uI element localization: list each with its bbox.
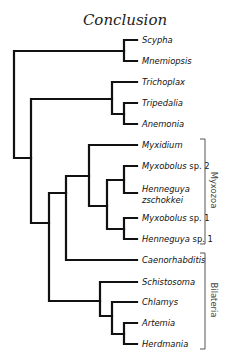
node-tripedalia-anemonia — [124, 103, 137, 124]
bilateria-bracket — [200, 253, 205, 349]
taxon-label-line2: zschokkei — [141, 195, 184, 205]
taxon-labels: Scypha Mnemiopsis Trichoplax Tripedalia … — [141, 35, 213, 349]
taxon-label: Myxobolus sp. 2 — [142, 161, 210, 171]
node-107 — [107, 180, 124, 229]
taxon-label: Anemonia — [141, 119, 184, 129]
taxon-label: Chlamys — [142, 297, 179, 307]
node-bilateria — [100, 282, 137, 316]
node-scypha-mnemiopsis — [124, 40, 137, 61]
bilateria-label: Bilateria — [209, 283, 219, 318]
myxozoa-bracket — [200, 139, 205, 244]
taxon-label: Herdmania — [142, 339, 188, 349]
phylogenetic-tree: Conclusion Scypha Mnemiopsis Trichoplax … — [0, 0, 231, 359]
node-artemia-herdmania — [124, 323, 137, 344]
taxon-label: Caenorhabditis — [142, 255, 206, 265]
node-myxozoa — [89, 145, 137, 206]
node-myxobolus1-henneguya1 — [124, 218, 137, 239]
taxon-label: Mnemiopsis — [142, 56, 192, 66]
taxon-label: Scypha — [142, 35, 173, 45]
taxon-label: Tripedalia — [142, 98, 183, 108]
taxon-label: Myxobolus sp. 1 — [142, 213, 210, 223]
taxon-label: Trichoplax — [142, 77, 186, 87]
diagram-title: Conclusion — [83, 11, 167, 29]
node-31 — [31, 99, 112, 223]
taxon-label: Schistosoma — [142, 277, 195, 287]
tree-branches — [14, 40, 137, 344]
node-myxobolus2-hzschokkei — [124, 166, 137, 193]
myxozoa-label: Myxozoa — [209, 172, 219, 209]
taxon-label: Artemia — [141, 318, 175, 328]
taxon-label: Henneguya sp. 1 — [142, 234, 213, 244]
node-49 — [49, 193, 100, 301]
taxon-label: Myxidium — [142, 140, 183, 150]
taxon-label: Henneguya — [142, 184, 190, 194]
